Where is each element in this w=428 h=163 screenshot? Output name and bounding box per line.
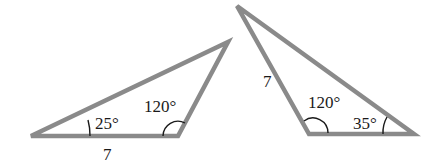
side-label-7-right: 7 [263, 72, 272, 91]
angle-label-120-right: 120° [308, 93, 340, 112]
left-triangle-shape [31, 42, 228, 136]
angle-label-35: 35° [353, 114, 377, 133]
side-label-7-left: 7 [103, 145, 112, 163]
triangles-diagram: 25° 120° 7 7 120° 35° [0, 0, 428, 163]
angle-label-25: 25° [95, 114, 119, 133]
left-triangle: 25° 120° 7 [31, 42, 228, 163]
angle-arc-25 [88, 120, 90, 136]
angle-arc-35 [383, 117, 387, 134]
right-triangle-shape [237, 6, 414, 134]
right-triangle: 7 120° 35° [237, 6, 414, 134]
angle-label-120-left: 120° [144, 97, 176, 116]
